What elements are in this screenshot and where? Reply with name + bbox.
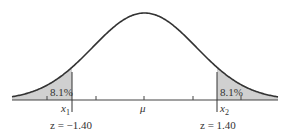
right-tail-percent: 8.1% xyxy=(220,86,243,98)
mu-label: μ xyxy=(140,102,146,114)
normal-curve-diagram xyxy=(0,0,289,136)
x2-label: x2 xyxy=(220,102,229,117)
right-z-label: z = 1.40 xyxy=(200,119,236,131)
left-z-label: z = −1.40 xyxy=(50,119,92,131)
x1-label: x1 xyxy=(61,102,70,117)
left-tail-percent: 8.1% xyxy=(50,86,73,98)
